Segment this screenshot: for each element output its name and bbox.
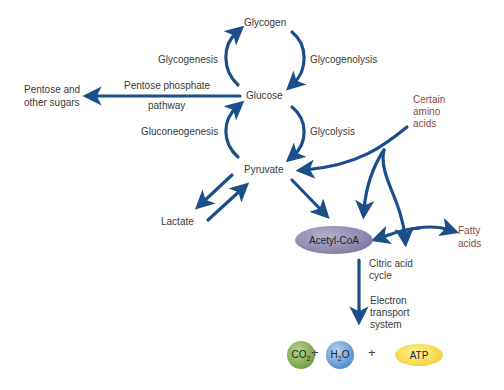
gluconeogenesis-arrow	[226, 107, 238, 157]
glycogenesis-label: Glycogenesis	[158, 54, 218, 66]
pentose-sugars-label-line1: Pentose and	[24, 84, 80, 96]
amino-acids-label-line2: amino	[413, 106, 440, 118]
citric-acid-cycle-label-line2: cycle	[369, 270, 392, 282]
lactate-label: Lactate	[161, 216, 194, 228]
h2o-label: H2O	[331, 349, 350, 362]
pentose-sugars-label-line2: other sugars	[24, 97, 80, 109]
plus-sign: +	[311, 345, 319, 360]
glycogenolysis-label: Glycogenolysis	[310, 54, 377, 66]
glycogen-label: Glycogen	[244, 17, 286, 29]
h2o-node: H2O	[326, 341, 354, 369]
glycogenesis-arrow	[226, 32, 238, 85]
atp-label: ATP	[410, 350, 429, 361]
glucose-label: Glucose	[246, 90, 283, 102]
electron-transport-label-line3: system	[370, 319, 402, 331]
pyruvate-to-acetyl-arrow	[292, 180, 323, 212]
glycogenolysis-arrow	[292, 32, 304, 84]
pathway-arrows	[0, 0, 504, 390]
fatty-acids-label-line1: Fatty	[458, 225, 480, 237]
pyruvate-label: Pyruvate	[244, 164, 283, 176]
amino-to-citric-arrow	[383, 150, 405, 238]
amino-to-acetyl-arrow	[364, 150, 384, 210]
pentose-pathway-label-line2: pathway	[148, 100, 185, 112]
glycolysis-arrow	[292, 107, 304, 156]
acetyl-coa-label: Acetyl-CoA	[309, 235, 359, 246]
amino-acids-label-line1: Certain	[413, 94, 445, 106]
co2-label: CO2	[292, 349, 311, 362]
pentose-pathway-label-line1: Pentose phosphate	[124, 80, 210, 92]
pyruvate-to-lactate-arrow	[202, 175, 232, 203]
atp-node: ATP	[395, 344, 443, 366]
electron-transport-label-line1: Electron	[370, 295, 407, 307]
electron-transport-label-line2: transport	[370, 307, 409, 319]
acetyl-coa-node: Acetyl-CoA	[295, 226, 373, 254]
fatty-acids-label-line2: acids	[458, 238, 481, 250]
gluconeogenesis-label: Gluconeogenesis	[141, 126, 218, 138]
amino-acids-label-line3: acids	[413, 118, 436, 130]
citric-acid-cycle-label-line1: Citric acid	[369, 258, 413, 270]
plus-sign: +	[368, 345, 376, 360]
glycolysis-label: Glycolysis	[310, 126, 355, 138]
